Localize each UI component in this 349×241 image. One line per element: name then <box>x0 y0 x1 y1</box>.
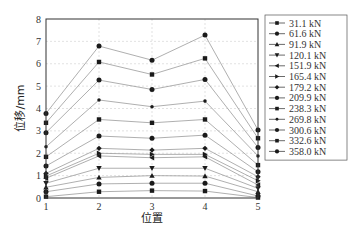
y-tick-label: 4 <box>36 103 41 114</box>
y-tick-label: 0 <box>36 193 41 204</box>
y-axis-label: 位移/mm <box>13 84 27 131</box>
y-tick-label: 1 <box>36 170 41 181</box>
x-tick-label: 4 <box>203 201 208 212</box>
legend-label: 61.6 kN <box>289 28 321 39</box>
legend-label: 209.9 kN <box>289 92 326 103</box>
legend-label: 238.3 kN <box>289 103 326 114</box>
legend-label: 179.2 kN <box>289 82 326 93</box>
y-tick-label: 7 <box>36 36 41 47</box>
legend-label: 165.4 kN <box>289 71 326 82</box>
legend-label: 300.6 kN <box>289 125 326 136</box>
y-tick-label: 3 <box>36 125 41 136</box>
x-tick-label: 3 <box>150 201 155 212</box>
legend: 31.1 kN61.6 kN91.9 kN120.1 kN151.9 kN165… <box>265 15 347 160</box>
x-tick-label: 5 <box>256 201 261 212</box>
y-tick-label: 5 <box>36 81 41 92</box>
x-axis-ticks: 12345 <box>44 201 261 212</box>
x-axis-label: 位置 <box>141 211 163 225</box>
x-tick-label: 1 <box>44 201 49 212</box>
y-tick-label: 6 <box>36 58 41 69</box>
grid-lines <box>46 19 258 198</box>
line-chart: 012345678 12345 位移/mm 位置 31.1 kN61.6 kN9… <box>0 0 349 241</box>
legend-label: 332.6 kN <box>289 135 326 146</box>
y-tick-label: 8 <box>36 14 41 25</box>
legend-label: 91.9 kN <box>289 39 321 50</box>
legend-label: 31.1 kN <box>289 18 321 29</box>
legend-label: 151.9 kN <box>289 60 326 71</box>
y-axis-ticks: 012345678 <box>36 14 41 204</box>
x-tick-label: 2 <box>97 201 102 212</box>
y-tick-label: 2 <box>36 148 41 159</box>
legend-label: 358.0 kN <box>289 146 326 157</box>
legend-label: 120.1 kN <box>289 50 326 61</box>
legend-label: 269.8 kN <box>289 114 326 125</box>
